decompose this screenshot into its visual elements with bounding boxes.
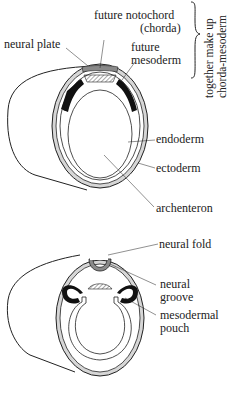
- label-future-mesoderm-2: mesoderm: [131, 54, 181, 66]
- label-archenteron: archenteron: [156, 202, 213, 214]
- label-future-notochord: future notochord: [94, 9, 174, 21]
- brace-note-line2: chorda-mesoderm: [216, 15, 228, 98]
- label-chorda: (chorda): [140, 22, 181, 34]
- brace-note-line1: together make up: [203, 18, 215, 98]
- label-neural-fold: neural fold: [159, 238, 211, 250]
- label-future-mesoderm-1: future: [131, 41, 160, 53]
- label-ectoderm: ectoderm: [156, 162, 201, 174]
- future-notochord: [84, 75, 116, 82]
- label-mesodermal-pouch-1: mesodermal: [160, 309, 219, 321]
- label-neural-groove-2: groove: [160, 291, 193, 303]
- label-endoderm: endoderm: [156, 133, 204, 145]
- brace: [191, 2, 200, 78]
- label-neural-plate: neural plate: [4, 38, 60, 50]
- label-neural-groove-1: neural: [160, 278, 190, 290]
- label-mesodermal-pouch-2: pouch: [160, 322, 189, 334]
